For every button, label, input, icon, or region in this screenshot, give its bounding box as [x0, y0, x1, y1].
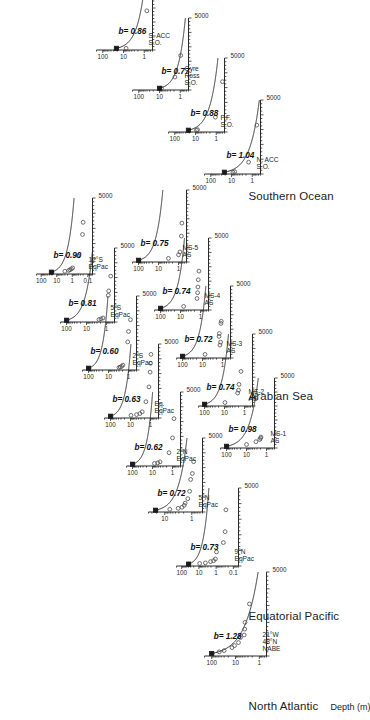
svg-text:10: 10 — [199, 361, 207, 368]
svg-text:1: 1 — [148, 421, 152, 428]
svg-text:b= 0.73: b= 0.73 — [190, 543, 218, 552]
svg-text:5000: 5000 — [236, 280, 251, 287]
svg-text:9°N: 9°N — [234, 548, 245, 555]
svg-text:1: 1 — [214, 135, 218, 142]
svg-text:5000: 5000 — [280, 372, 295, 379]
svg-text:5°S: 5°S — [110, 304, 121, 311]
svg-text:1: 1 — [214, 569, 218, 576]
svg-text:AS: AS — [270, 437, 279, 444]
svg-text:b= 0.81: b= 0.81 — [68, 299, 96, 308]
svg-text:10: 10 — [83, 325, 91, 332]
svg-text:1: 1 — [242, 409, 246, 416]
svg-text:5000: 5000 — [230, 52, 245, 59]
svg-text:AS: AS — [182, 251, 191, 258]
svg-text:Eq.: Eq. — [154, 400, 164, 408]
svg-text:100: 100 — [133, 93, 144, 100]
svg-text:b= 0.75: b= 0.75 — [140, 239, 168, 248]
svg-text:1: 1 — [126, 373, 130, 380]
svg-text:1: 1 — [264, 451, 268, 458]
svg-text:5000: 5000 — [266, 94, 281, 101]
svg-text:1: 1 — [176, 265, 180, 272]
svg-text:10: 10 — [119, 53, 127, 60]
svg-text:0.1: 0.1 — [83, 277, 92, 284]
svg-text:1: 1 — [250, 177, 254, 184]
svg-text:b= 1.28: b= 1.28 — [213, 632, 241, 641]
svg-text:100: 100 — [205, 177, 216, 184]
svg-text:5000: 5000 — [214, 232, 229, 239]
svg-text:MS-4: MS-4 — [204, 292, 220, 299]
svg-text:10: 10 — [105, 373, 113, 380]
svg-text:S.O.: S.O. — [184, 79, 197, 86]
x-axis-title: Depth (m) — [330, 702, 370, 712]
panel-eqpac-12s: 0.11101005000b= 0.90EqPac12°S — [28, 190, 114, 300]
svg-text:MS-5: MS-5 — [182, 244, 198, 251]
svg-text:5°N: 5°N — [198, 494, 209, 501]
svg-text:10: 10 — [155, 265, 163, 272]
svg-text:10: 10 — [231, 659, 239, 666]
svg-text:Ross: Ross — [184, 72, 200, 79]
svg-text:EqPac: EqPac — [132, 359, 152, 367]
svg-text:EqPac: EqPac — [234, 555, 254, 563]
svg-text:100: 100 — [127, 469, 138, 476]
svg-text:100: 100 — [199, 409, 210, 416]
svg-text:1: 1 — [257, 659, 261, 666]
svg-text:S. ACC: S. ACC — [148, 32, 170, 39]
svg-text:AS: AS — [248, 395, 257, 402]
svg-text:EqPac: EqPac — [198, 501, 218, 509]
svg-text:b= 0.74: b= 0.74 — [162, 287, 190, 296]
svg-text:100: 100 — [177, 361, 188, 368]
svg-text:N. ACC: N. ACC — [256, 156, 278, 163]
svg-text:10: 10 — [149, 469, 157, 476]
svg-text:100: 100 — [155, 313, 166, 320]
svg-text:100: 100 — [176, 569, 187, 576]
svg-text:b= 0.62: b= 0.62 — [134, 443, 162, 452]
svg-text:2°S: 2°S — [132, 352, 143, 359]
svg-text:10: 10 — [191, 135, 199, 142]
svg-text:100: 100 — [61, 325, 72, 332]
svg-text:S.O.: S.O. — [220, 121, 233, 128]
svg-text:100: 100 — [206, 659, 217, 666]
svg-text:10: 10 — [195, 569, 203, 576]
svg-text:5000: 5000 — [244, 482, 259, 489]
svg-text:10: 10 — [161, 515, 169, 522]
panel-so-sacc: 1101005000b= 0.86S.O.S. ACC — [88, 0, 174, 76]
svg-text:b= 0.63: b= 0.63 — [112, 395, 140, 404]
svg-text:1: 1 — [198, 313, 202, 320]
svg-text:1: 1 — [220, 361, 224, 368]
svg-text:0.1: 0.1 — [228, 569, 237, 576]
svg-text:100: 100 — [105, 421, 116, 428]
svg-text:2°N: 2°N — [176, 448, 187, 455]
svg-text:1: 1 — [178, 93, 182, 100]
svg-text:10: 10 — [177, 313, 185, 320]
svg-text:10: 10 — [243, 451, 251, 458]
svg-text:b= 0.72: b= 0.72 — [184, 335, 212, 344]
svg-text:100: 100 — [83, 373, 94, 380]
svg-text:Gyre: Gyre — [184, 65, 199, 73]
svg-text:MS-2: MS-2 — [248, 388, 264, 395]
svg-text:5000: 5000 — [258, 328, 273, 335]
svg-text:100: 100 — [133, 265, 144, 272]
svg-text:MS-3: MS-3 — [226, 340, 242, 347]
svg-text:1: 1 — [70, 277, 74, 284]
svg-text:12°S: 12°S — [88, 256, 103, 263]
svg-text:NABE: NABE — [262, 645, 281, 652]
svg-text:AS: AS — [226, 347, 235, 354]
svg-text:21°W: 21°W — [262, 631, 279, 638]
svg-text:P.F.: P.F. — [220, 114, 231, 121]
svg-text:b= 0.74: b= 0.74 — [206, 383, 234, 392]
svg-text:5000: 5000 — [272, 566, 287, 573]
svg-text:EqPac: EqPac — [176, 455, 196, 463]
svg-text:10: 10 — [127, 421, 135, 428]
svg-text:1: 1 — [104, 325, 108, 332]
svg-text:b= 0.90: b= 0.90 — [53, 251, 81, 260]
panel-as-ms-5: 1101005000b= 0.75ASMS-5 — [124, 182, 208, 288]
svg-text:S.O.: S.O. — [148, 39, 161, 46]
svg-text:10: 10 — [221, 409, 229, 416]
svg-text:5000: 5000 — [98, 192, 113, 199]
svg-text:1: 1 — [170, 469, 174, 476]
region-label-north-atlantic: North Atlantic — [248, 700, 318, 712]
svg-text:S.O.: S.O. — [256, 163, 269, 170]
svg-text:EqPac: EqPac — [154, 407, 174, 415]
svg-text:100: 100 — [35, 277, 46, 284]
